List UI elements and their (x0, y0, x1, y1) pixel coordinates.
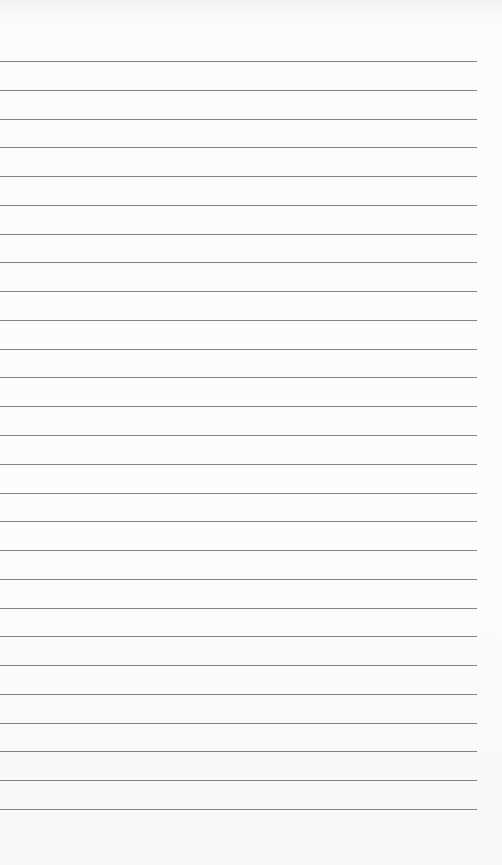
ruled-line (0, 176, 477, 177)
lined-paper-sheet (0, 0, 502, 865)
ruled-line (0, 119, 477, 120)
ruled-line (0, 61, 477, 62)
ruled-line (0, 493, 477, 494)
ruled-line (0, 464, 477, 465)
ruled-line (0, 90, 477, 91)
ruled-line (0, 234, 477, 235)
ruled-line (0, 550, 477, 551)
ruled-line (0, 608, 477, 609)
ruled-line (0, 636, 477, 637)
ruled-line (0, 579, 477, 580)
ruled-line (0, 694, 477, 695)
ruled-line (0, 665, 477, 666)
ruled-line (0, 780, 477, 781)
ruled-line (0, 320, 477, 321)
ruled-line (0, 291, 477, 292)
ruled-line (0, 147, 477, 148)
ruled-line (0, 435, 477, 436)
ruled-line (0, 723, 477, 724)
ruled-line (0, 751, 477, 752)
ruled-line (0, 349, 477, 350)
ruled-line (0, 262, 477, 263)
ruled-line (0, 205, 477, 206)
ruled-line (0, 521, 477, 522)
ruled-line (0, 809, 477, 810)
ruled-line (0, 406, 477, 407)
ruled-line (0, 377, 477, 378)
